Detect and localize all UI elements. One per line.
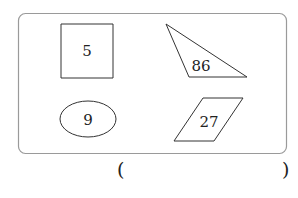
parallelogram-shape: 27	[174, 98, 243, 141]
answer-open-paren: (	[117, 160, 124, 179]
parallelogram-label: 27	[199, 113, 218, 131]
ellipse-shape: 9	[60, 101, 116, 137]
square-label: 5	[82, 42, 92, 60]
answer-blank[interactable]	[132, 162, 278, 182]
shapes-frame	[19, 14, 287, 154]
diagram: 5 86 9 27 ( )	[0, 0, 298, 198]
answer-close-paren: )	[282, 160, 289, 179]
square-shape: 5	[61, 24, 113, 78]
triangle-shape: 86	[166, 24, 247, 77]
ellipse-label: 9	[83, 111, 93, 129]
triangle-label: 86	[191, 57, 210, 75]
